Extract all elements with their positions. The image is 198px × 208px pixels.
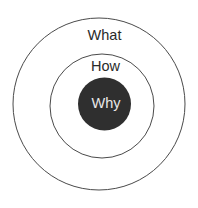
label-how: How	[91, 58, 121, 74]
golden-circle-diagram: What How Why	[0, 0, 198, 208]
label-what: What	[88, 27, 122, 43]
label-why: Why	[92, 95, 122, 111]
